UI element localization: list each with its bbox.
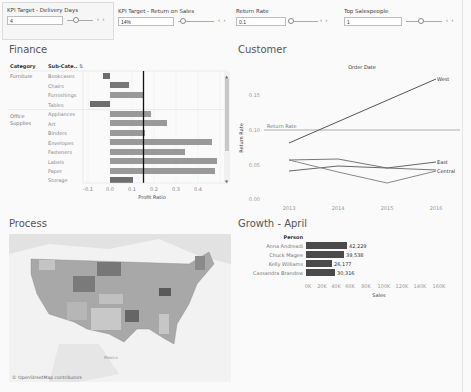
map-attribution: © OpenStreetMap contributors bbox=[12, 375, 83, 380]
prev-button[interactable]: ‹ bbox=[218, 17, 221, 23]
state-west-virginia[interactable] bbox=[159, 288, 171, 296]
sub-label: Paper bbox=[48, 168, 63, 175]
label-east: East bbox=[437, 159, 448, 165]
xtick: 2016 bbox=[430, 205, 443, 211]
sales-value: 39,538 bbox=[346, 252, 364, 258]
process-map[interactable]: Mexico © OpenStreetMap contributors bbox=[9, 234, 231, 382]
prev-button[interactable]: ‹ bbox=[320, 17, 323, 23]
person-header: Person bbox=[284, 234, 304, 240]
sub-label: Labels bbox=[48, 159, 64, 165]
tick: -0.1 bbox=[83, 186, 93, 192]
slider-knob[interactable] bbox=[288, 18, 294, 24]
y-axis-label: Return Rate bbox=[238, 123, 244, 153]
stepper-buttons[interactable]: ‹ › bbox=[97, 16, 106, 22]
growth-chart[interactable]: Person Anna Andreadi Chuck Magee Kelly W… bbox=[234, 234, 462, 309]
xtick: 20K bbox=[317, 283, 327, 289]
xtick: 60K bbox=[345, 283, 355, 289]
state-kansas[interactable] bbox=[99, 294, 123, 304]
ytick: 0.05 bbox=[249, 162, 260, 168]
slider-knob[interactable] bbox=[73, 17, 79, 23]
ytick: 0.15 bbox=[249, 92, 260, 98]
sales-value: 26,177 bbox=[334, 261, 352, 267]
state-florida[interactable] bbox=[159, 314, 169, 334]
sales-axis-label: Sales bbox=[372, 292, 386, 298]
scrollbar-thumb[interactable] bbox=[225, 79, 229, 151]
stepper-buttons[interactable]: ‹ › bbox=[446, 17, 455, 23]
customer-chart[interactable]: Order Date Return Rate 0.15 0.10 0.05 0.… bbox=[234, 58, 462, 213]
xtick: 160K bbox=[433, 283, 447, 289]
person-name: Anna Andreadi bbox=[266, 243, 303, 249]
sub-label: Tables bbox=[47, 102, 64, 108]
param-label: Return Rate bbox=[236, 8, 269, 14]
reference-label: Return Rate bbox=[267, 123, 297, 129]
person-name: Cassandra Brandow bbox=[253, 270, 303, 276]
sub-label: Binders bbox=[48, 130, 67, 136]
param-return-rate: Return Rate ‹ › bbox=[232, 4, 338, 40]
slider-knob[interactable] bbox=[418, 18, 424, 24]
person-name: Kelly Williams bbox=[269, 261, 304, 268]
param-label: KPI Target - Return on Sales bbox=[118, 8, 194, 14]
next-button[interactable]: › bbox=[326, 17, 329, 23]
finance-chart[interactable]: Category Sub-Cate.. ⇅ Furniture Office S… bbox=[0, 58, 232, 200]
next-button[interactable]: › bbox=[224, 17, 227, 23]
category-furniture: Furniture bbox=[10, 73, 32, 79]
tick: 0.3 bbox=[172, 186, 180, 192]
param-return-on-sales: KPI Target - Return on Sales ‹ › bbox=[114, 4, 232, 40]
param-label: Top Salespeople bbox=[344, 8, 388, 14]
xtick: 80K bbox=[361, 283, 371, 289]
sales-value: 42,229 bbox=[349, 243, 367, 249]
state-arizona[interactable] bbox=[67, 302, 87, 320]
state-north-dakota[interactable] bbox=[97, 262, 121, 276]
param-label: KPI Target - Delivery Days bbox=[7, 7, 78, 13]
sub-label: Storage bbox=[48, 177, 68, 184]
sub-label: Appliances bbox=[48, 111, 76, 118]
state-texas[interactable] bbox=[91, 308, 121, 330]
ytick: 0.10 bbox=[249, 127, 260, 133]
tick: 0.4 bbox=[194, 186, 202, 192]
finance-axis-label: Profit Ratio bbox=[138, 194, 165, 200]
growth-title: Growth - April bbox=[238, 218, 307, 229]
xtick: 2014 bbox=[332, 205, 345, 211]
xtick: 140K bbox=[414, 283, 428, 289]
person-name: Chuck Magee bbox=[269, 252, 303, 259]
param-delivery-days: KPI Target - Delivery Days ‹ › bbox=[2, 2, 114, 40]
tick: 0.2 bbox=[150, 186, 158, 192]
finance-title: Finance bbox=[9, 44, 47, 55]
return-rate-input[interactable] bbox=[236, 17, 286, 26]
sort-icon[interactable]: ⇅ bbox=[79, 63, 83, 69]
xtick: 2015 bbox=[381, 205, 394, 211]
line-west[interactable] bbox=[289, 79, 436, 143]
delivery-days-slider[interactable] bbox=[67, 20, 93, 21]
state-louisiana[interactable] bbox=[125, 310, 139, 322]
slider-knob[interactable] bbox=[180, 18, 186, 24]
xtick: 0K bbox=[305, 283, 312, 289]
state-wyoming[interactable] bbox=[73, 276, 95, 292]
sub-label: Bookcases bbox=[48, 73, 75, 79]
sub-label: Fasteners bbox=[48, 149, 72, 155]
next-button[interactable]: › bbox=[103, 16, 106, 22]
xtick: 2013 bbox=[283, 205, 296, 211]
stepper-buttons[interactable]: ‹ › bbox=[320, 17, 329, 23]
stepper-buttons[interactable]: ‹ › bbox=[218, 17, 227, 23]
ytick: 0.00 bbox=[249, 196, 260, 202]
tick: 0.0 bbox=[106, 186, 114, 192]
col-header-category: Category bbox=[10, 63, 36, 70]
process-title: Process bbox=[9, 218, 47, 229]
top-salespeople-input[interactable] bbox=[344, 17, 402, 26]
return-on-sales-input[interactable] bbox=[118, 17, 174, 26]
sales-value: 30,316 bbox=[337, 270, 355, 276]
next-button[interactable]: › bbox=[452, 17, 455, 23]
delivery-days-input[interactable] bbox=[7, 16, 63, 25]
top-salespeople-slider[interactable] bbox=[406, 21, 442, 22]
label-central: Central bbox=[437, 168, 455, 174]
xtick: 100K bbox=[378, 283, 392, 289]
sub-label: Chairs bbox=[48, 83, 64, 89]
dashboard-edge bbox=[462, 0, 463, 392]
col-header-subcategory: Sub-Cate.. bbox=[48, 63, 78, 69]
prev-button[interactable]: ‹ bbox=[446, 17, 449, 23]
state-washington[interactable] bbox=[39, 260, 55, 270]
xtick: 40K bbox=[331, 283, 341, 289]
prev-button[interactable]: ‹ bbox=[97, 16, 100, 22]
xtick: 120K bbox=[396, 283, 410, 289]
state-maine[interactable] bbox=[195, 256, 205, 270]
